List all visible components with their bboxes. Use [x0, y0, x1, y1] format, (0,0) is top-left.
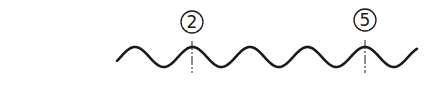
marker-5-label: 5 — [360, 10, 371, 30]
marker-2: 2 — [181, 11, 203, 73]
marker-2-label: 2 — [187, 12, 198, 32]
wave-line — [117, 47, 417, 67]
marker-5: 5 — [354, 9, 376, 73]
wave-diagram: 2 5 — [0, 0, 425, 86]
